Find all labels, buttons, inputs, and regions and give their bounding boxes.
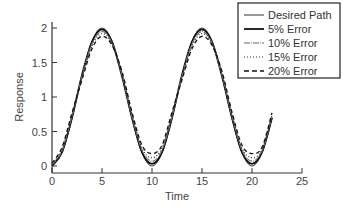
x-tick-label: 25 <box>296 175 308 187</box>
y-tick-label: 1.5 <box>32 57 47 69</box>
svg-text:Desired Path: Desired Path <box>268 9 332 21</box>
x-tick-label: 10 <box>146 175 158 187</box>
svg-text:10% Error: 10% Error <box>268 37 318 49</box>
svg-text:15% Error: 15% Error <box>268 51 318 63</box>
x-tick-label: 0 <box>49 175 55 187</box>
x-ticks: 0510152025 <box>49 168 308 187</box>
x-axis-title: Time <box>165 190 189 202</box>
y-axis-title: Response <box>13 72 25 122</box>
svg-text:20% Error: 20% Error <box>268 65 318 77</box>
line-chart: 0510152025 00.511.52 Time Response Desir… <box>0 0 343 214</box>
x-tick-label: 15 <box>196 175 208 187</box>
legend: Desired Path 5% Error 10% Error 15% Erro… <box>238 3 340 78</box>
svg-text:5% Error: 5% Error <box>268 23 312 35</box>
x-tick-label: 20 <box>246 175 258 187</box>
y-tick-label: 2 <box>41 22 47 34</box>
x-tick-label: 5 <box>99 175 105 187</box>
y-tick-label: 1 <box>41 91 47 103</box>
y-tick-label: 0.5 <box>32 126 47 138</box>
y-tick-label: 0 <box>41 160 47 172</box>
y-ticks: 00.511.52 <box>32 22 57 172</box>
